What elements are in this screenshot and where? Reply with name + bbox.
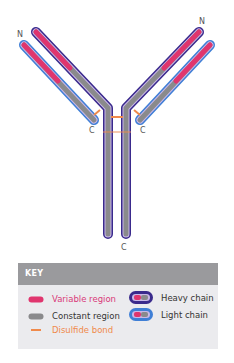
constant-region-swatch: [28, 313, 44, 320]
c-terminus-label-heavy: C: [121, 243, 127, 252]
key-label-disulfide-bond: Disulfide bond: [52, 325, 113, 335]
key-label-light-chain: Light chain: [161, 310, 208, 320]
disulfide-bonds: [94, 110, 140, 132]
n-terminus-label-right: N: [199, 17, 205, 26]
c-terminus-label-light-left: C: [89, 126, 95, 135]
key-header: KEY: [18, 263, 218, 285]
variable-region-swatch: [28, 296, 44, 303]
key-label-constant-region: Constant region: [52, 311, 120, 321]
light-chain-swatch: [129, 308, 153, 321]
antibody-diagram: N N C C C: [0, 0, 234, 260]
disulfide-bond-swatch: [31, 329, 41, 332]
key-legend: KEY Variable region Constant region Disu…: [18, 263, 218, 349]
key-label-variable-region: Variable region: [52, 294, 116, 304]
heavy-chain-swatch: [129, 291, 153, 304]
n-terminus-label-left: N: [17, 30, 23, 39]
key-label-heavy-chain: Heavy chain: [161, 293, 214, 303]
c-terminus-label-light-right: C: [140, 126, 146, 135]
